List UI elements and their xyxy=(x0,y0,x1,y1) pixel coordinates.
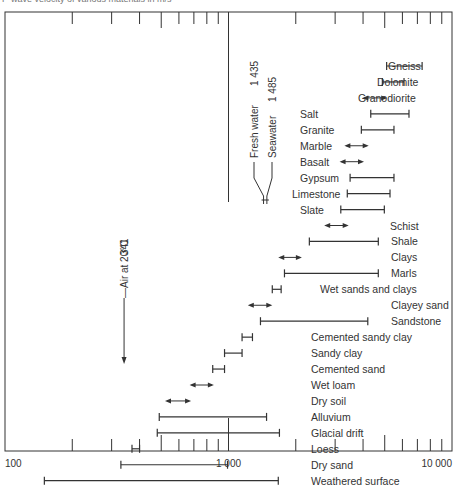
seawater-value: 1 485 xyxy=(267,77,278,102)
x-tick-label: 100 xyxy=(5,458,22,469)
arrow-left-icon xyxy=(190,383,196,388)
material-label: Wet loam xyxy=(311,379,355,391)
arrow-right-icon xyxy=(185,398,191,403)
material-label: Alluvium xyxy=(311,411,351,423)
arrow-right-icon xyxy=(363,143,369,148)
material-label: Granodiorite xyxy=(358,92,416,104)
material-label: Limestone xyxy=(292,188,341,200)
arrow-left-icon xyxy=(278,255,284,260)
arrow-right-icon xyxy=(343,223,349,228)
velocity-range-chart: 1001 00010 000GneissDolomiteGranodiorite… xyxy=(0,0,464,495)
seawater-leader-line xyxy=(267,162,272,204)
x-tick-label: 1 000 xyxy=(216,458,241,469)
material-label: Clayey sand xyxy=(391,299,449,311)
material-label: Dry soil xyxy=(311,395,346,407)
material-label: Marble xyxy=(300,140,332,152)
material-label: Slate xyxy=(300,204,324,216)
arrow-left-icon xyxy=(165,398,171,403)
arrow-right-icon xyxy=(358,159,364,164)
freshwater-value: 1 435 xyxy=(249,61,260,86)
material-label: Marls xyxy=(391,267,417,279)
material-label: Weathered surface xyxy=(311,475,400,487)
arrow-right-icon xyxy=(266,303,272,308)
arrow-down-icon xyxy=(122,357,127,364)
material-label: Shale xyxy=(391,235,418,247)
chart-container: P-wave velocity of various materials in … xyxy=(0,0,464,495)
material-label: Sandy clay xyxy=(311,347,363,359)
arrow-left-icon xyxy=(344,143,350,148)
arrow-left-icon xyxy=(340,159,346,164)
air-annotation-value: 341 xyxy=(119,238,130,255)
freshwater-leader-line xyxy=(254,162,264,204)
material-label: Schist xyxy=(390,220,419,232)
arrow-left-icon xyxy=(324,223,330,228)
material-label: Gypsum xyxy=(300,172,339,184)
material-label: Gneiss xyxy=(388,60,421,72)
material-label: Cemented sand xyxy=(311,363,385,375)
material-label: Dry sand xyxy=(311,459,353,471)
material-label: Salt xyxy=(300,108,318,120)
material-label: Granite xyxy=(300,124,335,136)
material-label: Clays xyxy=(391,251,417,263)
material-label: Wet sands and clays xyxy=(320,283,417,295)
freshwater-label: Fresh water xyxy=(249,105,260,158)
arrow-right-icon xyxy=(208,383,214,388)
material-label: Cemented sandy clay xyxy=(311,331,413,343)
seawater-label: Seawater xyxy=(267,115,278,158)
material-label: Sandstone xyxy=(391,315,441,327)
material-label: Glacial drift xyxy=(311,427,364,439)
arrow-left-icon xyxy=(248,303,254,308)
arrow-right-icon xyxy=(296,255,302,260)
material-label: Dolomite xyxy=(377,76,419,88)
material-label: Loess xyxy=(311,443,339,455)
x-tick-label: 10 000 xyxy=(421,458,452,469)
material-label: Basalt xyxy=(300,156,329,168)
